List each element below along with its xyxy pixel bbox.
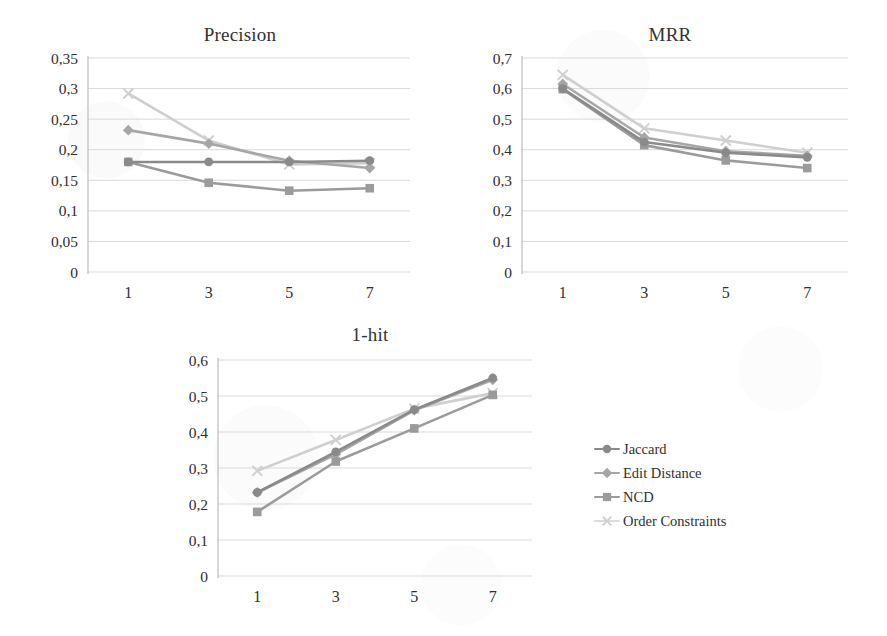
x-axis-tick-label: 7 bbox=[366, 284, 374, 301]
y-axis-tick-label: 0,25 bbox=[51, 111, 78, 128]
y-axis-tick-label: 0,2 bbox=[59, 141, 78, 158]
legend-marker-circle-icon bbox=[594, 442, 620, 456]
legend-marker-cross-icon bbox=[594, 514, 620, 528]
x-axis-tick-label: 3 bbox=[205, 284, 213, 301]
data-point-circle bbox=[204, 158, 213, 167]
y-axis-tick-label: 0,6 bbox=[493, 80, 513, 97]
data-point-circle bbox=[640, 138, 649, 147]
y-axis-tick-label: 0,1 bbox=[189, 532, 208, 549]
legend-marker-square-icon bbox=[594, 490, 620, 504]
y-axis-tick-label: 0,5 bbox=[189, 388, 209, 405]
legend-item-edit-distance[interactable]: Edit Distance bbox=[594, 461, 794, 485]
plot-area-1hit: 00,10,20,30,40,50,61357 bbox=[150, 350, 570, 618]
data-point-circle bbox=[558, 84, 567, 93]
data-point-circle bbox=[124, 158, 133, 167]
chart-svg-precision: 00,050,10,150,20,250,30,351357 bbox=[10, 50, 440, 315]
series-line bbox=[128, 93, 370, 164]
y-axis-tick-label: 0,6 bbox=[189, 352, 209, 369]
chart-panel-precision: Precision 00,050,10,150,20,250,30,351357 bbox=[10, 24, 440, 314]
data-point-cross bbox=[123, 88, 133, 98]
data-point-square bbox=[721, 156, 730, 165]
data-point-circle bbox=[488, 374, 497, 383]
chart-svg-mrr: 00,10,20,30,40,50,60,71357 bbox=[450, 50, 880, 315]
y-axis-tick-label: 0,15 bbox=[51, 172, 78, 189]
plot-area-mrr: 00,10,20,30,40,50,60,71357 bbox=[450, 50, 880, 315]
series-line bbox=[257, 395, 493, 512]
chart-title-mrr: MRR bbox=[500, 24, 840, 46]
y-axis-tick-label: 0,2 bbox=[189, 496, 208, 513]
chart-panel-mrr: MRR 00,10,20,30,40,50,60,71357 bbox=[450, 24, 880, 314]
data-point-circle bbox=[331, 447, 340, 456]
legend-label-ncd: NCD bbox=[623, 490, 654, 505]
legend-label-jaccard: Jaccard bbox=[623, 442, 666, 457]
y-axis-tick-label: 0 bbox=[200, 568, 208, 585]
x-axis-tick-label: 7 bbox=[489, 588, 497, 605]
series-edit-distance bbox=[252, 374, 498, 497]
y-axis-tick-label: 0,4 bbox=[493, 141, 513, 158]
x-axis-tick-label: 7 bbox=[803, 284, 811, 301]
y-axis-tick-label: 0,5 bbox=[493, 111, 513, 128]
chart-panel-1hit: 1-hit 00,10,20,30,40,50,61357 bbox=[150, 324, 570, 624]
chart-svg-1hit: 00,10,20,30,40,50,61357 bbox=[150, 350, 570, 618]
data-point-square bbox=[285, 186, 294, 195]
data-point-diamond bbox=[123, 125, 134, 136]
y-axis-tick-label: 0,1 bbox=[59, 202, 78, 219]
legend-item-order-constraints[interactable]: Order Constraints bbox=[594, 509, 794, 533]
y-axis-tick-label: 0,05 bbox=[51, 233, 78, 250]
x-axis-tick-label: 5 bbox=[722, 284, 730, 301]
data-point-cross bbox=[558, 70, 568, 80]
series-line bbox=[128, 162, 370, 191]
data-point-square bbox=[204, 178, 213, 187]
data-point-square bbox=[365, 184, 374, 193]
data-point-square bbox=[331, 457, 340, 466]
data-point-square bbox=[803, 164, 812, 173]
y-axis-tick-label: 0,3 bbox=[493, 172, 513, 189]
x-axis-tick-label: 3 bbox=[332, 588, 340, 605]
x-axis-tick-label: 5 bbox=[410, 588, 418, 605]
data-point-circle bbox=[285, 158, 294, 167]
data-point-circle bbox=[721, 148, 730, 157]
data-point-circle bbox=[803, 153, 812, 162]
series-line bbox=[563, 84, 808, 156]
chart-legend: Jaccard Edit Distance NCD Order Constrai… bbox=[594, 437, 794, 533]
data-point-circle bbox=[410, 405, 419, 414]
data-point-square bbox=[488, 391, 497, 400]
series-line bbox=[128, 161, 370, 162]
y-axis-tick-label: 0,4 bbox=[189, 424, 209, 441]
series-jaccard bbox=[253, 374, 497, 497]
y-axis-tick-label: 0,3 bbox=[59, 80, 79, 97]
y-axis-tick-label: 0,3 bbox=[189, 460, 209, 477]
legend-marker-diamond-icon bbox=[594, 466, 620, 480]
data-point-circle bbox=[253, 488, 262, 497]
legend-item-ncd[interactable]: NCD bbox=[594, 485, 794, 509]
x-axis-tick-label: 1 bbox=[124, 284, 132, 301]
y-axis-tick-label: 0,2 bbox=[493, 202, 512, 219]
x-axis-tick-label: 5 bbox=[285, 284, 293, 301]
x-axis-tick-label: 1 bbox=[253, 588, 261, 605]
series-order-constraints bbox=[123, 88, 375, 169]
legend-label-order-constraints: Order Constraints bbox=[623, 514, 727, 529]
x-axis-tick-label: 1 bbox=[559, 284, 567, 301]
series-edit-distance bbox=[123, 125, 375, 174]
chart-title-1hit: 1-hit bbox=[200, 324, 540, 346]
y-axis-tick-label: 0,7 bbox=[493, 50, 513, 67]
legend-item-jaccard[interactable]: Jaccard bbox=[594, 437, 794, 461]
series-ncd bbox=[253, 391, 497, 517]
chart-title-precision: Precision bbox=[70, 24, 410, 46]
y-axis-tick-label: 0 bbox=[504, 264, 512, 281]
y-axis-tick-label: 0,1 bbox=[493, 233, 512, 250]
data-point-square bbox=[253, 508, 262, 517]
data-point-circle bbox=[365, 156, 374, 165]
y-axis-tick-label: 0 bbox=[70, 264, 78, 281]
legend-label-edit-distance: Edit Distance bbox=[623, 466, 702, 481]
series-line bbox=[257, 378, 493, 492]
x-axis-tick-label: 3 bbox=[640, 284, 648, 301]
data-point-square bbox=[410, 424, 419, 433]
plot-area-precision: 00,050,10,150,20,250,30,351357 bbox=[10, 50, 440, 315]
y-axis-tick-label: 0,35 bbox=[51, 50, 78, 67]
